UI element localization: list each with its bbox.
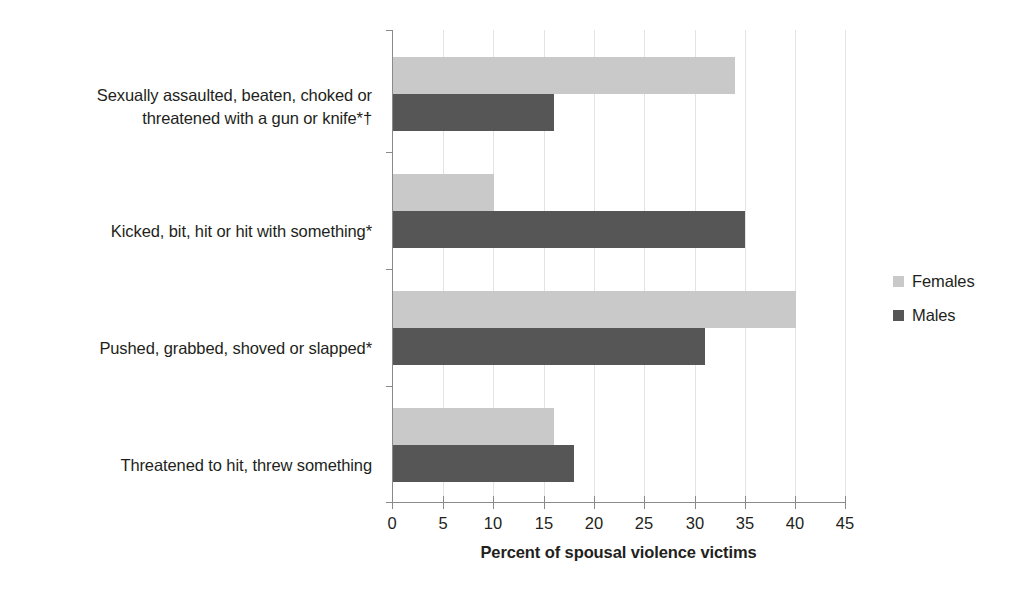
category-label-line: Sexually assaulted, beaten, choked or bbox=[32, 84, 372, 107]
gridline-25 bbox=[644, 30, 645, 502]
category-axis-labels: Sexually assaulted, beaten, choked or th… bbox=[30, 30, 382, 502]
category-label-pushed-grabbed: Pushed, grabbed, shoved or slapped* bbox=[32, 337, 372, 360]
bar-males-sexual-assault bbox=[393, 94, 554, 131]
x-axis-tick bbox=[443, 496, 444, 509]
x-axis-tick bbox=[392, 496, 393, 509]
category-label-line: Kicked, bit, hit or hit with something* bbox=[32, 220, 372, 243]
x-axis-tick-label-10: 10 bbox=[473, 514, 513, 533]
plot-area: 0 5 10 15 20 25 30 35 40 45 bbox=[392, 30, 845, 502]
chart-legend: Females Males bbox=[893, 264, 1023, 332]
gridline-35 bbox=[745, 30, 746, 502]
legend-swatch-icon-females bbox=[893, 276, 904, 287]
category-label-kicked-bit-hit: Kicked, bit, hit or hit with something* bbox=[32, 220, 372, 243]
bar-females-pushed-grabbed bbox=[393, 291, 796, 328]
gridline-30 bbox=[695, 30, 696, 502]
gridline-20 bbox=[594, 30, 595, 502]
x-axis-line bbox=[392, 502, 846, 503]
x-axis-title: Percent of spousal violence victims bbox=[392, 543, 845, 562]
legend-item-males: Males bbox=[893, 298, 1023, 332]
x-axis-tick bbox=[845, 496, 846, 509]
x-axis-tick-label-40: 40 bbox=[775, 514, 815, 533]
category-label-sexual-assault: Sexually assaulted, beaten, choked or th… bbox=[32, 84, 372, 131]
legend-swatch-icon-males bbox=[893, 310, 904, 321]
gridline-45 bbox=[845, 30, 846, 502]
category-label-line: Threatened to hit, threw something bbox=[32, 454, 372, 477]
x-axis-tick bbox=[745, 496, 746, 509]
y-axis-tick bbox=[386, 152, 392, 153]
x-axis-tick bbox=[695, 496, 696, 509]
category-label-line: threatened with a gun or knife*† bbox=[32, 107, 372, 130]
y-axis-tick bbox=[386, 30, 392, 31]
x-axis-tick-label-5: 5 bbox=[423, 514, 463, 533]
bar-chart-figure: Sexually assaulted, beaten, choked or th… bbox=[0, 0, 1033, 599]
y-axis-tick bbox=[386, 386, 392, 387]
x-axis-tick bbox=[493, 496, 494, 509]
bar-females-threatened-to-hit bbox=[393, 408, 554, 445]
bar-females-kicked-bit-hit bbox=[393, 174, 494, 211]
legend-item-females: Females bbox=[893, 264, 1023, 298]
bar-males-pushed-grabbed bbox=[393, 328, 705, 365]
x-axis-tick-label-20: 20 bbox=[574, 514, 614, 533]
x-axis-tick bbox=[644, 496, 645, 509]
x-axis-tick-label-30: 30 bbox=[675, 514, 715, 533]
x-axis-tick-label-25: 25 bbox=[624, 514, 664, 533]
x-axis-tick-label-15: 15 bbox=[524, 514, 564, 533]
legend-label-females: Females bbox=[912, 272, 975, 291]
x-axis-tick bbox=[795, 496, 796, 509]
x-axis-tick-label-35: 35 bbox=[725, 514, 765, 533]
x-axis-tick-label-0: 0 bbox=[372, 514, 412, 533]
gridline-40 bbox=[795, 30, 796, 502]
bar-females-sexual-assault bbox=[393, 57, 735, 94]
category-label-line: Pushed, grabbed, shoved or slapped* bbox=[32, 337, 372, 360]
y-axis-line bbox=[392, 30, 393, 502]
x-axis-tick bbox=[544, 496, 545, 509]
bar-males-kicked-bit-hit bbox=[393, 211, 745, 248]
x-axis-tick bbox=[594, 496, 595, 509]
legend-label-males: Males bbox=[912, 306, 956, 325]
y-axis-tick bbox=[386, 269, 392, 270]
x-axis-tick-label-45: 45 bbox=[825, 514, 865, 533]
category-label-threatened-to-hit: Threatened to hit, threw something bbox=[32, 454, 372, 477]
bar-males-threatened-to-hit bbox=[393, 445, 574, 482]
